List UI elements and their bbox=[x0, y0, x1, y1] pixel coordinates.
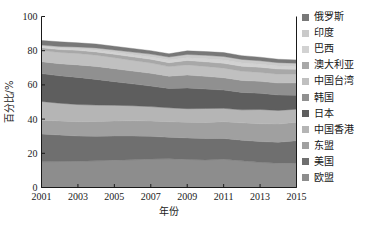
legend-item-label: 巴西 bbox=[314, 44, 334, 54]
legend-item-label: 日本 bbox=[314, 109, 334, 119]
y-tick-label: 100 bbox=[23, 11, 38, 22]
x-tick-label: 2001 bbox=[32, 191, 52, 202]
legend-item[interactable]: 中国香港 bbox=[302, 122, 372, 138]
legend-item-label: 欧盟 bbox=[314, 173, 334, 183]
legend-swatch-icon bbox=[302, 14, 309, 21]
legend-item[interactable]: 巴西 bbox=[302, 41, 372, 57]
legend-item[interactable]: 中国台湾 bbox=[302, 73, 372, 89]
stacked-area-chart-figure: 0204060801002001200320052007200920112013… bbox=[0, 0, 372, 227]
x-tick-label: 2013 bbox=[250, 191, 270, 202]
stacked-areas-group bbox=[42, 40, 297, 187]
legend-swatch-icon bbox=[302, 110, 309, 117]
legend-swatch-icon bbox=[302, 46, 309, 53]
legend-item[interactable]: 韩国 bbox=[302, 89, 372, 105]
legend-item-label: 东盟 bbox=[314, 141, 334, 151]
legend-item[interactable]: 美国 bbox=[302, 154, 372, 170]
legend-item[interactable]: 东盟 bbox=[302, 138, 372, 154]
legend-item-label: 韩国 bbox=[314, 93, 334, 103]
legend-swatch-icon bbox=[302, 158, 309, 165]
x-tick-label: 2015 bbox=[287, 191, 307, 202]
y-tick-label: 80 bbox=[28, 45, 38, 56]
y-tick-label: 40 bbox=[28, 114, 38, 125]
area-band bbox=[42, 159, 297, 188]
legend-item[interactable]: 日本 bbox=[302, 106, 372, 122]
legend-item-label: 印度 bbox=[314, 28, 334, 38]
legend-item[interactable]: 俄罗斯 bbox=[302, 9, 372, 25]
legend-item-label: 澳大利亚 bbox=[314, 60, 354, 70]
legend-swatch-icon bbox=[302, 30, 309, 37]
legend-item-label: 俄罗斯 bbox=[314, 12, 344, 22]
legend-swatch-icon bbox=[302, 174, 309, 181]
x-tick-label: 2009 bbox=[177, 191, 197, 202]
legend-swatch-icon bbox=[302, 94, 309, 101]
x-axis-title: 年份 bbox=[159, 205, 179, 217]
x-tick-label: 2011 bbox=[214, 191, 234, 202]
y-tick-label: 60 bbox=[28, 79, 38, 90]
legend-item-label: 中国台湾 bbox=[314, 76, 354, 86]
legend-swatch-icon bbox=[302, 126, 309, 133]
legend-swatch-icon bbox=[302, 142, 309, 149]
legend-item[interactable]: 澳大利亚 bbox=[302, 57, 372, 73]
legend-swatch-icon bbox=[302, 78, 309, 85]
y-tick-label: 20 bbox=[28, 148, 38, 159]
chart-legend: 俄罗斯印度巴西澳大利亚中国台湾韩国日本中国香港东盟美国欧盟 bbox=[302, 9, 372, 186]
legend-swatch-icon bbox=[302, 62, 309, 69]
x-tick-label: 2005 bbox=[104, 191, 124, 202]
x-tick-label: 2007 bbox=[141, 191, 161, 202]
x-tick-label: 2003 bbox=[68, 191, 88, 202]
legend-item[interactable]: 印度 bbox=[302, 25, 372, 41]
legend-item[interactable]: 欧盟 bbox=[302, 170, 372, 186]
legend-item-label: 中国香港 bbox=[314, 125, 354, 135]
legend-item-label: 美国 bbox=[314, 157, 334, 167]
y-axis-title: 百分比/% bbox=[4, 81, 15, 124]
